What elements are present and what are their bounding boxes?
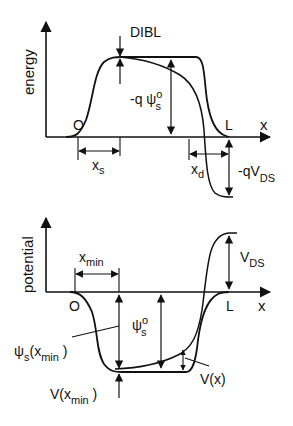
xs-label: xs	[92, 157, 105, 176]
psi-xmin-label: ψs(xmin )	[14, 343, 67, 363]
potential-origin-label: O	[69, 298, 80, 314]
energy-origin-label: O	[73, 117, 84, 133]
energy-vds-label: -qVDS	[238, 163, 275, 184]
energy-end-label: L	[225, 117, 233, 133]
psi-s-label: ψos	[132, 314, 148, 338]
xmin-label: xmin	[79, 249, 104, 268]
potential-x-label: x	[258, 297, 266, 314]
energy-y-label: energy	[20, 49, 37, 95]
potential-vds-label: VDS	[240, 249, 265, 269]
potential-curve-with-vds	[115, 233, 237, 369]
potential-panel: xmin ψs(xmin ) V(xmin ) ψos V(x) VDS O L…	[14, 218, 270, 406]
dibl-label: DIBL	[130, 24, 161, 40]
energy-x-label: x	[260, 116, 268, 133]
barrier-height-label: -q ψos	[130, 88, 162, 112]
vx-leader	[185, 358, 209, 366]
potential-y-label: potential	[19, 236, 36, 293]
mosfet-band-diagram: DIBL -q ψos O L x energy xs xd -qVDS	[0, 0, 293, 426]
potential-end-label: L	[226, 298, 234, 314]
vxmin-label: V(xmin )	[50, 386, 97, 406]
xd-label: xd	[191, 161, 204, 180]
energy-panel: DIBL -q ψos O L x energy xs xd -qVDS	[20, 22, 275, 197]
vx-label: V(x)	[200, 371, 226, 387]
